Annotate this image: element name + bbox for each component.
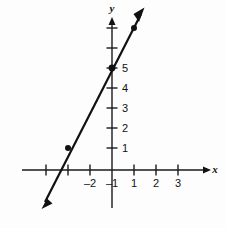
data-point-neg2-1 — [65, 145, 71, 151]
x-tick-label-neg2: –2 — [84, 177, 96, 189]
x-axis-arrowhead — [203, 167, 211, 174]
line-arrowhead-lower-left — [42, 199, 53, 210]
coordinate-graph: –2 –1 1 2 3 1 2 3 4 5 x y — [0, 0, 226, 228]
x-tick-label-3: 3 — [175, 177, 181, 189]
y-tick-label-2: 2 — [122, 122, 128, 134]
y-tick-label-4: 4 — [122, 82, 128, 94]
x-tick-label-neg1: –1 — [106, 177, 118, 189]
y-tick-label-1: 1 — [122, 142, 128, 154]
data-point-1-7 — [131, 25, 137, 31]
x-tick-label-1: 1 — [131, 177, 137, 189]
y-tick-label-5: 5 — [122, 62, 128, 74]
line-arrowhead-upper-right — [134, 8, 145, 23]
x-tick-label-2: 2 — [153, 177, 159, 189]
y-tick-label-3: 3 — [122, 102, 128, 114]
data-point-0-5 — [109, 65, 116, 72]
y-axis-arrowhead — [109, 17, 116, 25]
y-axis-label: y — [108, 2, 115, 14]
graph-canvas: –2 –1 1 2 3 1 2 3 4 5 x y — [0, 0, 226, 228]
x-axis-label: x — [211, 163, 218, 175]
